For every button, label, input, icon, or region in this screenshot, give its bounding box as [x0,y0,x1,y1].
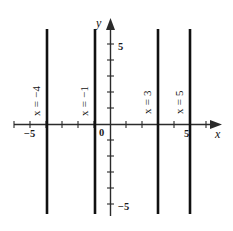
y-tick-label-5: 5 [118,42,123,53]
line-label-x-3: x = 3 [142,90,153,114]
origin-label: 0 [99,128,104,139]
y-tick-label-minus5: −5 [118,202,129,213]
x-tick-label-minus5: −5 [24,129,35,140]
line-label-x-minus1: x = −1 [79,86,90,116]
vertical-lines-group [47,29,190,214]
x-axis-label: x [215,128,220,140]
line-label-x-minus4: x = −4 [31,86,42,116]
y-axis-label: y [96,17,101,29]
y-axis-group [106,18,115,216]
line-label-x-5: x = 5 [174,90,185,114]
y-axis-arrowhead [106,18,115,30]
x-tick-label-5: 5 [184,129,189,140]
graph-figure: x y −5 5 0 5 −5 x = −4 x = −1 x = 3 x = … [0,0,233,231]
